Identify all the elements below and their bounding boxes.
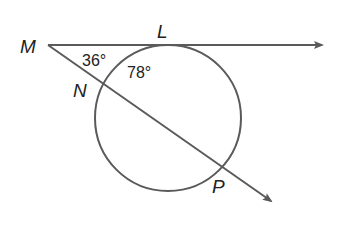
point-label-l: L	[157, 21, 168, 42]
point-label-p: P	[212, 176, 225, 197]
point-label-n: N	[73, 80, 87, 101]
geometry-diagram: M L N P 36° 78°	[0, 0, 343, 228]
point-label-m: M	[20, 36, 36, 57]
angle-label-36: 36°	[82, 52, 106, 69]
circle	[95, 45, 241, 191]
arc-label-78: 78°	[127, 64, 151, 81]
